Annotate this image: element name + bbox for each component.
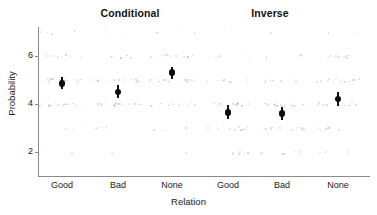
raw-data-point (327, 57, 329, 59)
raw-data-point (191, 80, 193, 82)
raw-data-point (319, 152, 321, 154)
mean-point (169, 69, 175, 75)
raw-data-point (276, 129, 278, 131)
raw-data-point (344, 105, 346, 107)
raw-data-point (81, 105, 83, 107)
raw-data-point (112, 153, 114, 155)
raw-data-point (175, 55, 177, 57)
raw-data-point (185, 152, 187, 154)
raw-data-point (178, 105, 180, 107)
raw-data-point (327, 128, 329, 130)
raw-data-point (66, 80, 68, 82)
raw-data-point (113, 79, 115, 81)
raw-data-point (161, 55, 163, 57)
raw-data-point (303, 129, 305, 131)
raw-data-point (247, 152, 249, 154)
raw-data-point (51, 33, 53, 35)
raw-data-point (248, 57, 250, 59)
raw-data-point (248, 104, 250, 106)
raw-data-point (113, 104, 115, 106)
raw-data-point (69, 55, 71, 57)
raw-data-point (221, 105, 223, 107)
raw-data-point (40, 31, 42, 33)
raw-data-point (130, 103, 132, 105)
raw-data-point (247, 79, 249, 81)
raw-data-point (238, 153, 240, 155)
raw-data-point (78, 81, 80, 83)
raw-data-point (230, 81, 232, 83)
raw-data-point (217, 80, 219, 82)
raw-data-point (280, 80, 282, 82)
raw-data-point (329, 127, 331, 129)
raw-data-point (158, 81, 160, 83)
raw-data-point (261, 152, 263, 154)
raw-data-point (73, 79, 75, 81)
raw-data-point (245, 129, 247, 131)
mean-point (59, 80, 65, 86)
raw-data-point (328, 32, 330, 34)
raw-data-point (72, 128, 74, 130)
raw-data-point (95, 128, 97, 130)
raw-data-point (266, 56, 268, 58)
raw-data-point (72, 103, 74, 105)
x-tick-label: Bad (95, 180, 141, 190)
raw-data-point (120, 57, 122, 59)
raw-data-point (80, 79, 82, 81)
raw-data-point (153, 129, 155, 131)
raw-data-point (279, 127, 281, 129)
raw-data-point (270, 80, 272, 82)
raw-data-point (333, 81, 335, 83)
raw-data-point (343, 103, 345, 105)
raw-data-point (51, 78, 53, 80)
raw-data-point (265, 128, 267, 130)
raw-data-point (39, 105, 41, 107)
raw-data-point (292, 105, 294, 107)
raw-data-point (136, 81, 138, 83)
raw-data-point (329, 55, 331, 57)
raw-data-point (316, 81, 318, 83)
raw-data-point (179, 79, 181, 81)
raw-data-point (266, 104, 268, 106)
raw-data-point (351, 103, 353, 105)
x-tick-label: None (149, 180, 195, 190)
raw-data-point (151, 57, 153, 59)
raw-data-point (46, 32, 48, 34)
raw-data-point (194, 32, 196, 34)
raw-data-point (320, 129, 322, 131)
raw-data-point (80, 57, 82, 59)
raw-data-point (139, 81, 141, 83)
y-tick-label: 6 (19, 50, 33, 60)
raw-data-point (75, 105, 77, 107)
raw-data-point (81, 127, 83, 129)
raw-data-point (71, 153, 73, 155)
raw-data-point (335, 55, 337, 57)
raw-data-point (172, 103, 174, 105)
raw-data-point (61, 56, 63, 58)
raw-data-point (137, 103, 139, 105)
mean-point (279, 110, 285, 116)
raw-data-point (168, 55, 170, 57)
raw-data-point (243, 55, 245, 57)
raw-data-point (97, 103, 99, 105)
raw-data-point (105, 103, 107, 105)
raw-data-point (344, 81, 346, 83)
raw-data-point (57, 56, 59, 58)
raw-data-point (215, 57, 217, 59)
raw-data-point (46, 54, 48, 56)
raw-data-point (131, 79, 133, 81)
raw-data-point (109, 81, 111, 83)
raw-data-point (62, 105, 64, 107)
raw-data-point (68, 104, 70, 106)
raw-data-point (124, 104, 126, 106)
y-axis-line (38, 27, 39, 176)
raw-data-point (357, 32, 359, 34)
raw-data-point (270, 128, 272, 130)
y-tick-mark (35, 104, 38, 105)
mean-point (115, 89, 121, 95)
raw-data-point (186, 81, 188, 83)
raw-data-point (49, 105, 51, 107)
raw-data-point (225, 79, 227, 81)
x-tick-label: Good (205, 180, 251, 190)
raw-data-point (232, 152, 234, 154)
raw-data-point (295, 81, 297, 83)
